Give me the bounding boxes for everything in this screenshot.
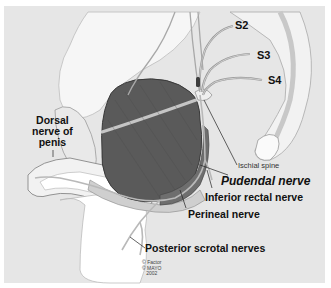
label-s4: S4: [268, 75, 281, 86]
label-posterior-scrotal-nerves: Posterior scrotal nerves: [145, 243, 265, 254]
label-s3: S3: [257, 50, 270, 61]
label-perineal-nerve: Perineal nerve: [188, 209, 260, 220]
label-pudendal-nerve: Pudendal nerve: [221, 175, 310, 187]
sacral-nerve-highlights: [200, 26, 262, 95]
credit-line3: 2002: [142, 271, 161, 277]
label-dorsal-line3: penis: [32, 137, 73, 148]
copyright-credit: © Factor © MAYO 2002: [142, 260, 161, 277]
label-dorsal-nerve-of-penis: Dorsal nerve of penis: [32, 115, 73, 148]
label-ischial-spine: Ischial spine: [238, 162, 279, 170]
dark-vessel: [196, 77, 200, 87]
sacral-nerve-roots: [200, 26, 262, 95]
label-inferior-rectal-nerve: Inferior rectal nerve: [205, 192, 303, 203]
label-s2: S2: [235, 20, 248, 31]
